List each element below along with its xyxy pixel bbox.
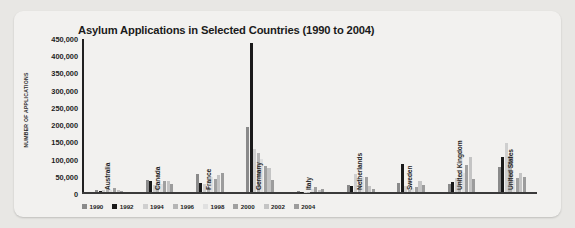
y-axis-tick: 0 [74,190,78,199]
chart-title: Asylum Applications in Selected Countrie… [78,24,374,36]
legend-swatch [294,204,299,209]
bar-group: Sweden [386,39,436,192]
legend-label: 2002 [271,203,285,210]
legend-item[interactable]: 1990 [82,203,103,210]
bar [321,189,324,192]
bar-group: Netherlands [336,39,386,192]
legend-swatch [264,204,269,209]
category-label: United Kingdom [456,141,463,191]
legend-swatch [143,204,148,209]
bar-group: France [185,39,235,192]
legend-label: 1994 [150,203,164,210]
y-axis-tick: 250,000 [51,103,78,112]
bar [422,185,425,193]
bar [221,173,224,193]
legend-label: 2000 [241,203,255,210]
legend-label: 1996 [180,203,194,210]
bar-group: Australia [84,39,134,192]
bar [271,180,274,192]
plot-area: 450,000400,000350,000300,000250,000200,0… [82,39,537,194]
category-label: Germany [255,163,262,191]
chart-card: Asylum Applications in Selected Countrie… [14,11,561,217]
legend-item[interactable]: 1998 [203,203,224,210]
legend-item[interactable]: 2004 [294,203,315,210]
category-label: Canada [154,167,161,190]
legend-swatch [82,204,87,209]
y-axis-tick: 50,000 [55,172,78,181]
legend-item[interactable]: 1992 [112,203,133,210]
category-label: Netherlands [356,153,363,190]
legend-item[interactable]: 2002 [264,203,285,210]
legend-swatch [233,204,238,209]
legend-swatch [203,204,208,209]
bar-group: United Kingdom [436,39,486,192]
bar-groups: AustraliaCanadaFranceGermanyItalyNetherl… [84,39,537,192]
bar [170,184,173,193]
y-axis-label: NUMBER OF APPLICATIONS [23,60,29,160]
legend-label: 1998 [211,203,225,210]
bar [372,189,375,192]
legend-label: 1992 [120,203,134,210]
bar-group: Canada [134,39,184,192]
y-axis-tick: 100,000 [51,155,78,164]
y-axis-tick: 400,000 [51,52,78,61]
legend-item[interactable]: 2000 [233,203,254,210]
legend-label: 2004 [301,203,315,210]
bar [472,179,475,193]
legend-item[interactable]: 1996 [173,203,194,210]
bar-group: United States [487,39,537,192]
legend-swatch [112,204,117,209]
y-axis-tick: 150,000 [51,138,78,147]
x-axis-line [82,192,537,194]
category-label: Australia [104,163,111,190]
bar [523,177,526,192]
y-axis-tick: 450,000 [51,35,78,44]
legend-swatch [173,204,178,209]
chart-legend: 19901992199419961998200020022004 [82,203,315,210]
bar-group: Italy [285,39,335,192]
category-label: Sweden [406,166,413,190]
y-axis-tick: 300,000 [51,86,78,95]
bar [120,191,123,192]
y-axis-tick: 350,000 [51,69,78,78]
y-axis-tick: 200,000 [51,121,78,130]
legend-label: 1990 [90,203,104,210]
category-label: France [205,169,212,190]
legend-item[interactable]: 1994 [143,203,164,210]
category-label: United States [507,150,514,191]
bar-group: Germany [235,39,285,192]
category-label: Italy [305,178,312,191]
